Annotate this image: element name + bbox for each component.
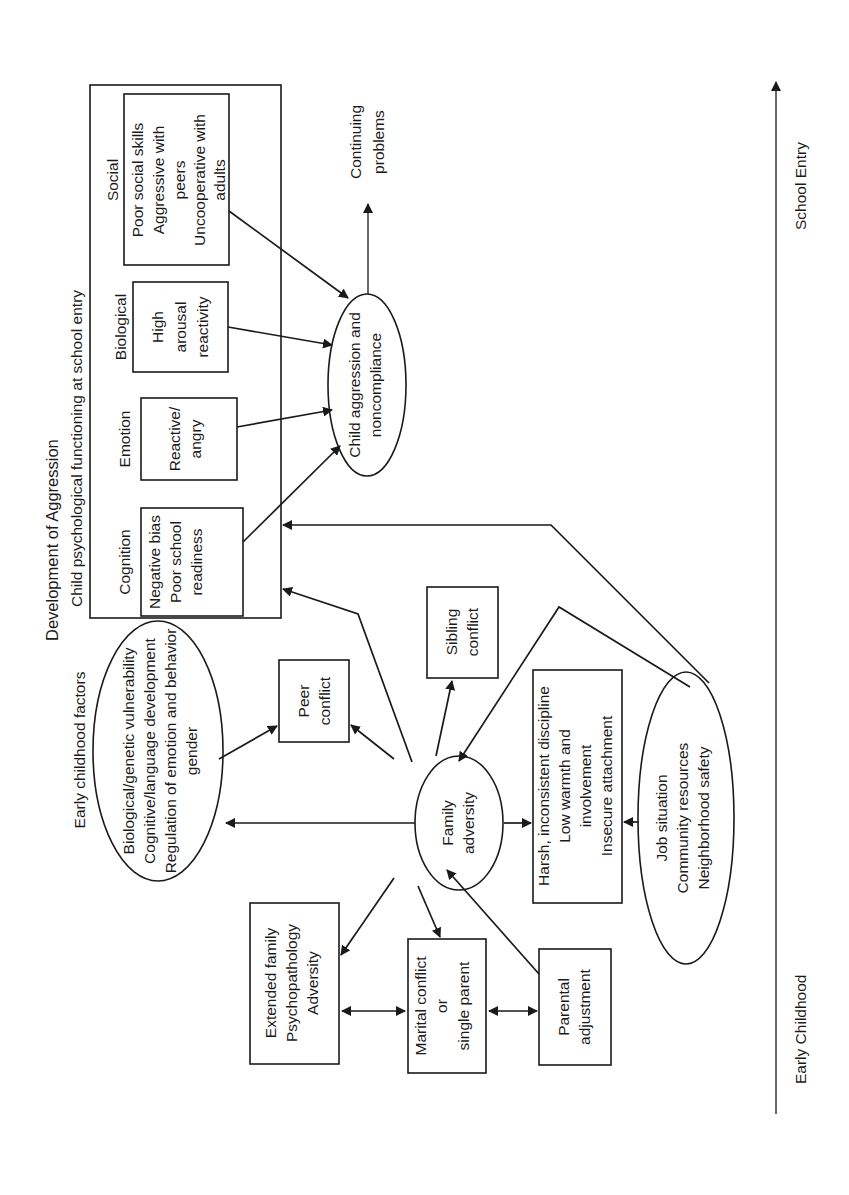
extended-line-2: Psychopathology [283,924,300,1042]
timeline-start-label: Early Childhood [792,975,809,1084]
parental-adjustment-node: Parental adjustment [539,949,611,1065]
cognition-line-1: Negative bias [146,515,163,609]
cognition-line-3: readiness [188,528,205,595]
sibling-conflict-box [427,587,498,678]
sibling-conflict-node: Sibling conflict [427,587,498,678]
community-node: Job situation Community resources Neighb… [638,672,734,964]
marital-line-1: Marital conflict [412,956,429,1056]
parenting-line-1: Harsh, inconsistent discipline [535,686,552,886]
early-childhood-heading: Early childhood factors [71,671,88,828]
extended-line-3: Adversity [304,951,321,1015]
family-adversity-ellipse [415,756,503,890]
emotion-label: Emotion [116,411,133,468]
biological-line-1: High [149,311,166,343]
extended-line-1: Extended family [262,928,279,1039]
sibling-line-2: conflict [464,607,481,656]
parental-adjustment-box [539,949,611,1065]
parental-line-2: adjustment [576,968,593,1045]
continuing-line-1: Continuing [347,105,364,179]
diagram-title: Development of Aggression [43,439,61,641]
arrow-family-to-marital [418,886,440,937]
emotion-domain: Emotion Reactive/ angry [116,398,237,480]
marital-line-2: or [433,999,450,1013]
early-childhood-ellipse [93,621,223,881]
peer-line-2: conflict [316,676,333,725]
early-childhood-line-2: Cognitive/language development [141,637,158,863]
social-line-2: Aggressive with [150,126,167,235]
family-line-2: adversity [460,792,477,854]
arrow-parental-to-family [447,870,539,974]
cognition-line-2: Poor school [167,521,184,603]
timeline-end-label: School Entry [792,142,809,230]
extended-family-node: Extended family Psychopathology Adversit… [250,903,339,1064]
community-line-3: Neighborhood safety [695,746,712,889]
title-text: Development of Aggression [43,439,61,641]
arrow-emotion-to-outcome [237,410,332,427]
continuing-problems: Continuing problems [347,105,387,294]
parental-line-1: Parental [555,978,572,1036]
arrow-biological-to-outcome [228,327,332,345]
aggression-development-diagram: Development of Aggression Child psycholo… [0,0,849,1195]
biological-line-2: arousal [172,302,189,353]
community-line-1: Job situation [653,774,670,861]
community-line-2: Community resources [674,742,691,893]
peer-line-1: Peer [295,685,312,718]
outcome-line-1: Child aggression and [346,312,363,458]
social-domain: Social Poor social skills Aggressive wit… [104,94,229,265]
arrow-family-to-peer [351,725,394,759]
family-line-1: Family [439,800,456,846]
early-childhood-line-3: Regulation of emotion and behavior [162,629,179,874]
social-line-4: Uncooperative with [191,114,208,246]
biological-line-3: reactivity [194,296,211,357]
biological-label: Biological [112,294,129,360]
early-childhood-line-1: Biological/genetic vulnerability [120,647,137,854]
social-label: Social [104,159,121,201]
continuing-line-2: problems [370,110,387,174]
parenting-line-2: Low warmth and [556,729,573,843]
marital-node: Marital conflict or single parent [408,939,486,1073]
arrow-social-to-outcome [229,211,348,298]
arrow-early-to-peer [219,726,277,759]
early-childhood-line-4: gender [183,727,200,775]
arrow-family-to-sibling [436,681,452,756]
parenting-line-4: Insecure attachment [598,715,615,856]
emotion-line-2: angry [187,419,204,458]
social-line-5: adults [211,159,228,201]
emotion-line-1: Reactive/ [166,406,183,471]
outcome-line-2: noncompliance [367,333,384,437]
arrow-family-to-school [283,589,412,762]
marital-line-3: single parent [455,961,472,1050]
social-line-1: Poor social skills [129,122,146,237]
peer-conflict-node: Peer conflict [279,660,349,742]
school-functioning-heading: Child psychological functioning at schoo… [68,290,85,607]
arrow-family-to-extended [341,878,394,955]
child-aggression-node: Child aggression and noncompliance [328,294,406,476]
social-line-3: peers [171,160,188,199]
family-adversity-node: Family adversity [415,756,503,890]
timeline: Early Childhood School Entry [776,82,809,1114]
parenting-node: Harsh, inconsistent discipline Low warmt… [533,670,622,903]
early-childhood-node: Early childhood factors Biological/genet… [71,621,223,881]
cognition-label: Cognition [116,529,133,595]
cognition-domain: Cognition Negative bias Poor school read… [116,508,243,616]
arrow-cognition-to-outcome [243,446,340,542]
peer-conflict-box [279,660,349,742]
biological-domain: Biological High arousal reactivity [112,282,228,372]
sibling-line-1: Sibling [443,609,460,656]
parenting-line-3: involvement [577,744,594,827]
